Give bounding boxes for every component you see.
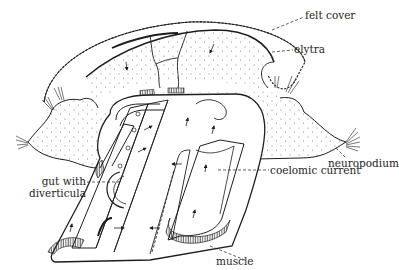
label-felt-cover: felt cover xyxy=(305,10,355,21)
label-gut-with: gut with xyxy=(22,176,86,187)
label-coelomic-current: coelomic current xyxy=(270,165,361,176)
label-diverticula: diverticula xyxy=(22,188,86,199)
label-muscle: muscle xyxy=(216,256,254,267)
label-elytra: elytra xyxy=(294,44,325,55)
